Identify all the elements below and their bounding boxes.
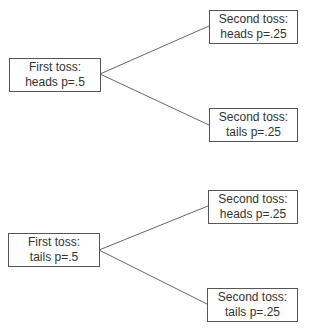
node-label-line2: tails p=.5 <box>30 250 78 265</box>
node-label-line2: heads p=.25 <box>220 27 286 42</box>
node-label-line1: Second toss: <box>219 12 288 27</box>
node-first-toss-heads: First toss: heads p=.5 <box>9 58 101 92</box>
node-second-toss-tails-after-heads: Second toss: tails p=.25 <box>209 108 298 142</box>
node-label-line1: First toss: <box>29 60 81 75</box>
tree-edges <box>0 0 309 330</box>
node-label-line1: Second toss: <box>219 110 288 125</box>
node-label-line2: tails p=.25 <box>226 125 281 140</box>
edge-heads-to-tails <box>100 74 209 125</box>
node-second-toss-tails-after-tails: Second toss: tails p=.25 <box>207 288 298 322</box>
node-first-toss-tails: First toss: tails p=.5 <box>8 233 100 267</box>
node-label-line2: heads p=.25 <box>220 207 286 222</box>
edge-tails-to-tails <box>99 250 207 304</box>
node-label-line1: Second toss: <box>218 290 287 305</box>
node-label-line1: Second toss: <box>218 192 287 207</box>
edge-tails-to-heads <box>99 206 208 250</box>
node-label-line2: heads p=.5 <box>25 75 85 90</box>
node-label-line1: First toss: <box>28 235 80 250</box>
edge-heads-to-heads <box>100 26 209 74</box>
node-second-toss-heads-after-heads: Second toss: heads p=.25 <box>209 10 298 44</box>
node-second-toss-heads-after-tails: Second toss: heads p=.25 <box>208 190 298 224</box>
node-label-line2: tails p=.25 <box>225 305 280 320</box>
